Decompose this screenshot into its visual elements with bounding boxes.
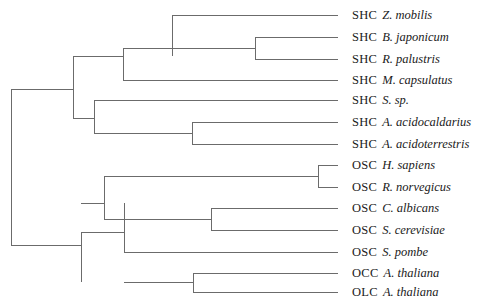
leaf-enzyme-code: SHC	[352, 52, 377, 66]
leaf-enzyme-code: SHC	[352, 115, 377, 129]
leaf-label-shc-s-sp: SHCS. sp.	[352, 94, 409, 107]
leaf-species-name: A. thaliana	[383, 285, 439, 299]
leaf-species-name: S. sp.	[382, 93, 409, 107]
leaf-species-name: H. sapiens	[382, 158, 435, 172]
leaf-label-shc-r-palustris: SHCR. palustris	[352, 53, 440, 66]
phylogenetic-tree-figure: SHCZ. mobilisSHCB. japonicumSHCR. palust…	[0, 0, 482, 303]
leaf-enzyme-code: OSC	[352, 180, 377, 194]
leaf-enzyme-code: OLC	[352, 285, 378, 299]
leaf-species-name: A. acidoterrestris	[382, 137, 469, 151]
leaf-species-name: S. pombe	[382, 245, 428, 259]
leaf-species-name: C. albicans	[382, 201, 439, 215]
leaf-label-osc-h-sapiens: OSCH. sapiens	[352, 159, 435, 172]
leaf-species-name: M. capsulatus	[382, 73, 452, 87]
leaf-enzyme-code: OSC	[352, 201, 377, 215]
leaf-species-name: R. norvegicus	[382, 180, 451, 194]
leaf-label-occ-a-thaliana: OCCA. thaliana	[352, 267, 439, 280]
leaf-enzyme-code: OSC	[352, 245, 377, 259]
leaf-enzyme-code: SHC	[352, 30, 377, 44]
leaf-label-osc-s-pombe: OSCS. pombe	[352, 246, 428, 259]
leaf-species-name: A. acidocaldarius	[382, 115, 471, 129]
leaf-enzyme-code: SHC	[352, 8, 377, 22]
leaf-label-olc-a-thaliana: OLCA. thaliana	[352, 286, 438, 299]
leaf-label-shc-z-mobilis: SHCZ. mobilis	[352, 9, 432, 22]
leaf-species-name: Z. mobilis	[382, 8, 432, 22]
leaf-enzyme-code: OSC	[352, 223, 377, 237]
leaf-enzyme-code: SHC	[352, 73, 377, 87]
leaf-label-osc-c-albicans: OSCC. albicans	[352, 202, 439, 215]
leaf-label-osc-r-norvegicus: OSCR. norvegicus	[352, 181, 451, 194]
leaf-species-name: S. cerevisiae	[382, 223, 445, 237]
leaf-label-osc-s-cerevisiae: OSCS. cerevisiae	[352, 224, 445, 237]
leaf-label-shc-a-acidocaldarius: SHCA. acidocaldarius	[352, 116, 471, 129]
leaf-species-name: R. palustris	[382, 52, 440, 66]
leaf-enzyme-code: OCC	[352, 266, 379, 280]
leaf-label-shc-m-capsulatus: SHCM. capsulatus	[352, 74, 452, 87]
leaf-species-name: B. japonicum	[382, 30, 449, 44]
leaf-enzyme-code: SHC	[352, 93, 377, 107]
leaf-label-shc-a-acidoterrestris: SHCA. acidoterrestris	[352, 138, 469, 151]
leaf-label-shc-b-japonicum: SHCB. japonicum	[352, 31, 449, 44]
leaf-enzyme-code: SHC	[352, 137, 377, 151]
leaf-enzyme-code: OSC	[352, 158, 377, 172]
leaf-label-list: SHCZ. mobilisSHCB. japonicumSHCR. palust…	[0, 0, 482, 303]
leaf-species-name: A. thaliana	[384, 266, 440, 280]
